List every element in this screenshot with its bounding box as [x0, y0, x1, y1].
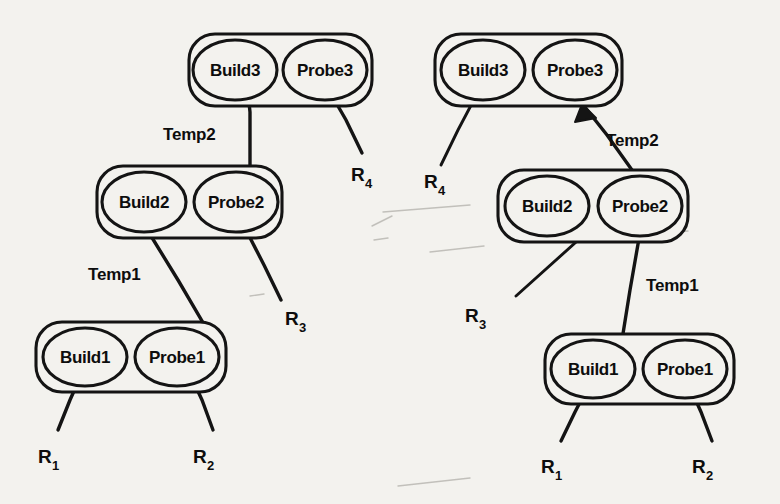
node-label-probe1: Probe1: [657, 360, 713, 379]
node-label-build2: Build2: [522, 197, 572, 216]
leaf-base-r3: R: [285, 308, 299, 329]
right-plan-tree: Build3 Probe3 Temp2 Build2 Probe2 Temp1: [424, 34, 734, 483]
leaf-base-r1: R: [38, 446, 52, 467]
node-label-probe3: Probe3: [297, 61, 353, 80]
diagram-svg: Build3 Probe3 Temp2 Build2 Probe2 Temp1: [0, 0, 780, 504]
leaf-base-r1: R: [541, 456, 555, 477]
leaf-base-r2: R: [193, 446, 207, 467]
leaf-sub-r4: 4: [438, 183, 446, 198]
left-plan-tree: Build3 Probe3 Temp2 Build2 Probe2 Temp1: [36, 34, 373, 473]
leaf-sub-r2: 2: [706, 468, 713, 483]
leaf-sub-r2: 2: [207, 458, 214, 473]
leaf-sub-r4: 4: [365, 176, 373, 191]
node-label-probe1: Probe1: [149, 348, 205, 367]
edge-label-temp1: Temp1: [88, 265, 141, 284]
node-label-probe3: Probe3: [547, 61, 603, 80]
leaf-label-r4: R 4: [351, 164, 373, 191]
leaf-base-r2: R: [692, 456, 706, 477]
leaf-label-r2: R 2: [193, 446, 214, 473]
leaf-label-r2: R 2: [692, 456, 713, 483]
leaf-sub-r1: 1: [52, 458, 59, 473]
leaf-label-r1: R 1: [541, 456, 562, 483]
figure-canvas: Build3 Probe3 Temp2 Build2 Probe2 Temp1: [0, 0, 780, 504]
node-label-build2: Build2: [119, 193, 169, 212]
leaf-sub-r1: 1: [555, 468, 562, 483]
node-label-build1: Build1: [60, 348, 110, 367]
node-label-build3: Build3: [458, 61, 508, 80]
leaf-sub-r3: 3: [299, 320, 306, 335]
node-label-probe2: Probe2: [208, 193, 264, 212]
leaf-base-r3: R: [465, 305, 479, 326]
leaf-label-r3: R 3: [285, 308, 306, 335]
leaf-base-r4: R: [351, 164, 365, 185]
edge-label-temp1: Temp1: [646, 276, 699, 295]
leaf-sub-r3: 3: [479, 317, 486, 332]
node-label-build3: Build3: [210, 61, 260, 80]
edge-label-temp2: Temp2: [163, 125, 216, 144]
leaf-label-r1: R 1: [38, 446, 59, 473]
node-label-build1: Build1: [568, 360, 618, 379]
leaf-label-r4: R 4: [424, 171, 446, 198]
edge-probe2-to-temp1: [622, 227, 641, 340]
node-label-probe2: Probe2: [612, 197, 668, 216]
edge-label-temp2: Temp2: [606, 131, 659, 150]
leaf-label-r3: R 3: [465, 305, 486, 332]
leaf-base-r4: R: [424, 171, 438, 192]
